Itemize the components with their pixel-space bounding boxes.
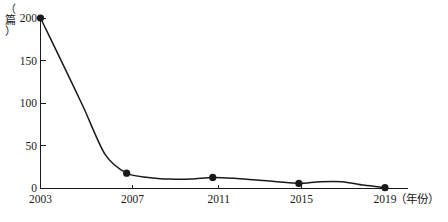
data-point-markers <box>37 14 389 191</box>
x-tick-labels: 2003 2007 2011 2015 2019 <box>29 193 397 205</box>
x-tick-label-2011: 2011 <box>208 193 231 205</box>
data-point-marker-2015 <box>295 180 302 187</box>
data-series-line <box>41 18 386 188</box>
y-tick-label-150: 150 <box>20 55 38 67</box>
x-tick-label-2007: 2007 <box>121 193 144 205</box>
x-tick-label-2015: 2015 <box>290 193 313 205</box>
x-tick-label-2003: 2003 <box>29 193 52 205</box>
y-unit-paren-close: ） <box>5 25 16 37</box>
data-point-marker-2019 <box>381 184 388 191</box>
data-point-marker-2011 <box>209 174 216 181</box>
data-point-marker-2007 <box>123 170 130 177</box>
data-point-marker-2003 <box>37 14 44 21</box>
y-tick-label-200: 200 <box>20 12 38 24</box>
chart-canvas: 0 50 100 150 200 （ 篇 ） 2003 2007 2011 20… <box>0 0 448 222</box>
y-axis-ticks <box>41 18 46 189</box>
y-tick-labels: 0 50 100 150 200 <box>20 12 38 194</box>
y-tick-label-50: 50 <box>26 140 38 152</box>
x-axis-unit-label: （年份） <box>395 192 439 205</box>
y-axis-unit-label: （ 篇 ） <box>5 3 16 37</box>
x-tick-label-2019: 2019 <box>374 193 397 205</box>
y-tick-label-100: 100 <box>20 97 38 109</box>
x-axis-ticks <box>41 185 386 189</box>
line-chart: 0 50 100 150 200 （ 篇 ） 2003 2007 2011 20… <box>0 0 448 222</box>
